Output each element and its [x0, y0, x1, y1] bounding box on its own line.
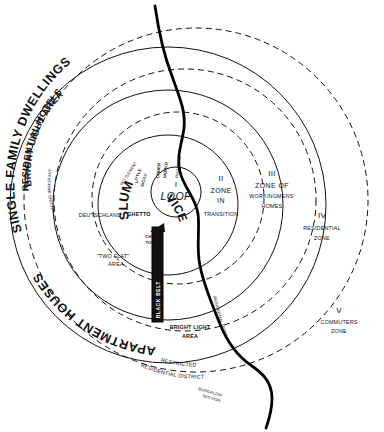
diagram-canvas: BLACK BELT SINGLE FAMILY DWELLINGS RESID…	[0, 0, 384, 432]
label-two-flat-area-line1: "TWO FLAT"	[97, 253, 130, 259]
burgess-concentric-zone-diagram: BLACK BELT SINGLE FAMILY DWELLINGS RESID…	[0, 0, 384, 432]
black-belt-label: BLACK BELT	[156, 281, 161, 318]
zone-5-name-line2: ZONE	[331, 328, 347, 334]
zone-3-name-line2: WORKINGMENS'	[249, 193, 294, 199]
label-china-town-line2: TOWN	[146, 240, 159, 245]
label-two-flat-area-line2: AREA	[108, 261, 124, 267]
zone-4-name-line1: RESIDENTIAL	[303, 225, 341, 231]
label-under-world-line1: UNDER	[155, 163, 162, 179]
zone-4-name-line2: ZONE	[314, 235, 330, 241]
zone-3-name-line1: ZONE OF	[255, 182, 289, 189]
zone-1-numeral: I	[175, 180, 178, 189]
zone-2-numeral: II	[218, 174, 223, 183]
label-restricted-line1-text: RESTRICTED	[160, 357, 196, 368]
label-single-family-dwellings: SINGLE FAMILY DWELLINGS	[3, 54, 73, 234]
zone-3-numeral: III	[268, 169, 276, 178]
zone-2-name-line1: ZONE	[210, 187, 231, 194]
label-apartment-houses-text: APARTMENT HOUSES	[30, 270, 156, 358]
label-under-world-line2: WORLD	[162, 162, 169, 178]
label-residential-hotels-river-text: RESIDENTIAL HOTELS	[212, 296, 230, 342]
label-ghetto: GHETTO	[127, 211, 151, 217]
zone-4-labels: IV RESIDENTIAL ZONE	[303, 211, 341, 241]
zone-5-name-line1: COMMUTERS	[320, 319, 357, 325]
label-residential-hotels-river: RESIDENTIAL HOTELS	[212, 296, 230, 342]
zone-2-name-line2: IN	[217, 197, 225, 204]
zone-5-labels: V COMMUTERS ZONE	[320, 306, 357, 334]
zone-4-numeral: IV	[318, 211, 327, 220]
label-single-family-dwellings-text: SINGLE FAMILY DWELLINGS	[3, 54, 73, 234]
label-restricted-line1: RESTRICTED	[160, 357, 196, 368]
label-china-town-line1: CHINA	[145, 234, 158, 239]
label-bright-light-area-bottom-line2: AREA	[182, 333, 198, 339]
label-deutschland: DEUTSCHLAND	[79, 212, 122, 218]
label-apartment-houses: APARTMENT HOUSES	[30, 270, 156, 358]
label-little-sicily-line2-text: SICILY	[139, 172, 148, 187]
zone-3-labels: III ZONE OF WORKINGMENS' HOMES	[249, 169, 294, 209]
label-little-sicily-line2: SICILY	[139, 172, 148, 187]
zone-3-name-line3: HOMES	[262, 203, 283, 209]
label-bright-light-area-bottom-line1: BRIGHT LIGHT	[170, 324, 211, 330]
zone-2-name-line3: TRANSITION	[204, 211, 239, 217]
zone-5-numeral: V	[336, 306, 342, 315]
